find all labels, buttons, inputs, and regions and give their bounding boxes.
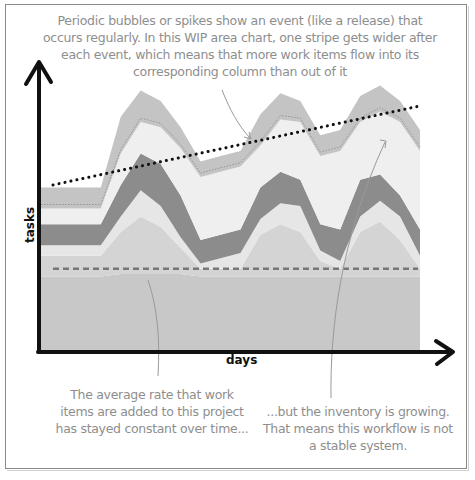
pointer-top xyxy=(222,90,250,138)
x-axis-label: days xyxy=(226,353,257,367)
y-axis-label: tasks xyxy=(23,207,37,243)
annotation-right: ...but the inventory is growing. That me… xyxy=(258,403,458,454)
area-layers xyxy=(41,85,420,350)
area-done xyxy=(41,274,420,350)
annotation-left: The average rate that work items are add… xyxy=(52,386,252,437)
annotation-top: Periodic bubbles or spikes show an event… xyxy=(40,12,440,80)
